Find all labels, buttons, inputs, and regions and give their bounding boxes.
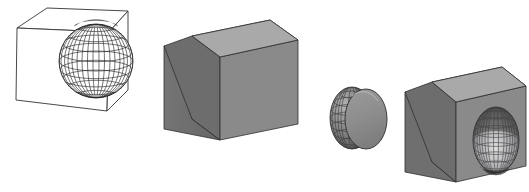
figure-difference-cube-minus-sphere [392,56,529,192]
cube-right-face [220,40,298,140]
solid-cube [164,20,298,140]
figure-1-canvas [0,0,160,130]
figure-wireframe-cube-and-sphere [0,0,160,130]
figure-union-cube-sphere [150,12,300,157]
figure-3-canvas [322,68,402,168]
figure-2-canvas [150,12,300,157]
figure-4-canvas [392,56,529,192]
csg-scene [0,0,529,192]
flat-cut-disc-face [345,89,387,149]
figure-sliced-sphere-piece [322,68,402,168]
